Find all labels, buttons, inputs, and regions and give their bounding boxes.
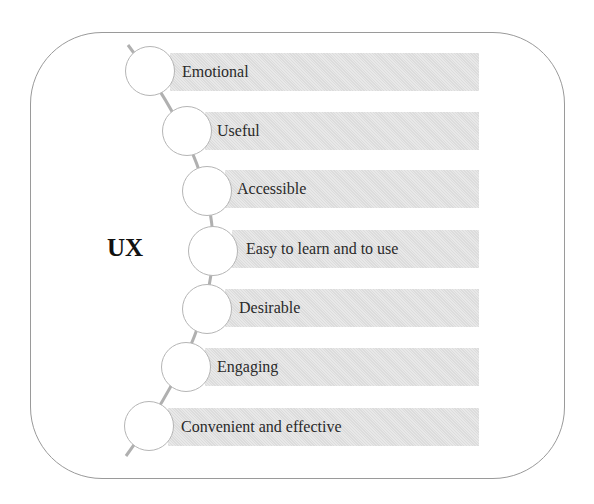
circle-node-engaging xyxy=(161,342,211,392)
item-bar-desirable: Desirable xyxy=(225,289,479,327)
item-label: Easy to learn and to use xyxy=(246,240,398,258)
item-bar-emotional: Emotional xyxy=(170,53,479,91)
circle-node-convenient xyxy=(124,401,174,451)
ux-center-label: UX xyxy=(107,234,143,262)
item-label: Accessible xyxy=(237,180,306,198)
circle-node-emotional xyxy=(125,46,175,96)
item-label: Desirable xyxy=(239,299,300,317)
item-label: Emotional xyxy=(182,63,249,81)
item-bar-accessible: Accessible xyxy=(225,170,479,208)
item-label: Engaging xyxy=(217,358,278,376)
circle-node-accessible xyxy=(182,166,232,216)
item-label: Useful xyxy=(217,122,260,140)
circle-node-desirable xyxy=(182,284,232,334)
item-label: Convenient and effective xyxy=(181,418,342,436)
circle-node-useful xyxy=(162,106,212,156)
item-bar-convenient: Convenient and effective xyxy=(168,408,479,446)
item-bar-easy-to-learn: Easy to learn and to use xyxy=(232,230,479,268)
item-bar-engaging: Engaging xyxy=(205,348,479,386)
item-bar-useful: Useful xyxy=(205,112,479,150)
circle-node-easy-to-learn xyxy=(188,226,238,276)
